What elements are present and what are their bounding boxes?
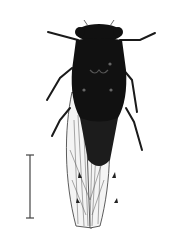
scale-bar bbox=[24, 154, 36, 220]
